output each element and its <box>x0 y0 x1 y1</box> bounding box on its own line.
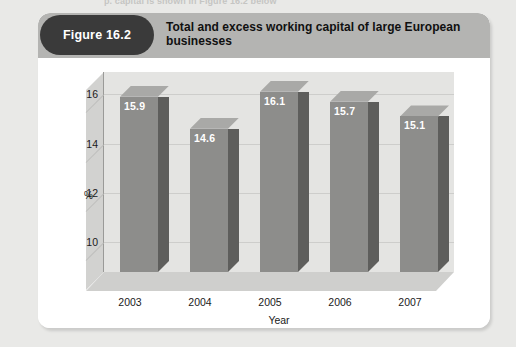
bar-side-face <box>298 92 309 272</box>
figure-card: Figure 16.2 Total and excess working cap… <box>38 13 490 328</box>
y-tick-label: 16 <box>86 88 98 100</box>
y-tick-label: 10 <box>86 236 98 248</box>
bar-side-face <box>438 116 449 272</box>
bar-front-face <box>260 92 298 272</box>
figure-number-label: Figure 16.2 <box>63 28 131 42</box>
x-axis-title: Year <box>268 314 289 326</box>
bar-front-face <box>330 102 368 272</box>
bar-side-face <box>368 102 379 272</box>
bar[interactable] <box>260 92 298 272</box>
bar-front-face <box>120 97 158 272</box>
bar-value-label: 15.9 <box>124 100 145 112</box>
x-tick-label: 2006 <box>328 296 351 308</box>
figure-header-band: Figure 16.2 Total and excess working cap… <box>38 13 490 58</box>
chart-body: 10121416 % 15.914.616.115.715.1 20032004… <box>38 58 490 328</box>
cut-off-body-text: p. capital is shown in Figure 16.2 below <box>104 0 504 8</box>
chart-floor <box>86 272 454 291</box>
figure-number-badge: Figure 16.2 <box>40 15 154 55</box>
bar[interactable] <box>190 129 228 272</box>
y-axis-title: % <box>84 190 93 201</box>
x-tick-label: 2007 <box>398 296 421 308</box>
bar-front-face <box>400 116 438 272</box>
bar-value-label: 16.1 <box>264 95 285 107</box>
bar-value-label: 15.7 <box>334 105 355 117</box>
bar[interactable] <box>400 116 438 272</box>
bar-value-label: 15.1 <box>404 119 425 131</box>
x-tick-label: 2004 <box>188 296 211 308</box>
x-tick-label: 2003 <box>118 296 141 308</box>
x-tick-label: 2005 <box>258 296 281 308</box>
bar-side-face <box>158 97 169 272</box>
bar-front-face <box>190 129 228 272</box>
figure-title: Total and excess working capital of larg… <box>166 20 466 48</box>
chart-plot-area: 10121416 % 15.914.616.115.715.1 20032004… <box>86 72 454 304</box>
bar[interactable] <box>120 97 158 272</box>
bar[interactable] <box>330 102 368 272</box>
bar-side-face <box>228 129 239 272</box>
y-tick-label: 14 <box>86 138 98 150</box>
bar-value-label: 14.6 <box>194 132 215 144</box>
